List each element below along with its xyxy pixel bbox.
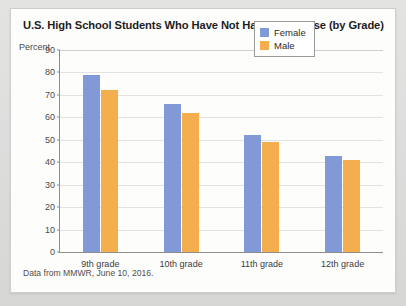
y-tick-mark-60 [57, 117, 60, 118]
y-tick-mark-0 [57, 252, 60, 253]
legend-label-female: Female [274, 27, 306, 38]
y-tick-mark-20 [57, 207, 60, 208]
bar-female-11th-grade [244, 135, 261, 252]
bar-female-9th-grade [83, 75, 100, 252]
page-background: U.S. High School Students Who Have Not H… [0, 0, 406, 306]
chart-title: U.S. High School Students Who Have Not H… [23, 19, 389, 31]
y-tick-mark-30 [57, 184, 60, 185]
source-note: Data from MMWR, June 10, 2016. [23, 268, 153, 278]
y-tick-label-0: 0 [50, 247, 55, 257]
y-tick-mark-40 [57, 162, 60, 163]
y-tick-label-90: 90 [45, 45, 55, 55]
y-tick-label-70: 70 [45, 90, 55, 100]
bar-female-10th-grade [164, 104, 181, 252]
y-tick-label-20: 20 [45, 202, 55, 212]
bar-male-12th-grade [343, 160, 360, 252]
x-tick-label-12th-grade: 12th grade [321, 259, 364, 269]
y-tick-mark-10 [57, 229, 60, 230]
legend-item-male[interactable]: Male [260, 39, 306, 52]
legend-label-male: Male [274, 40, 295, 51]
y-tick-mark-50 [57, 139, 60, 140]
y-tick-mark-70 [57, 94, 60, 95]
plot-area: 01020304050607080909th grade10th grade11… [59, 50, 383, 253]
y-tick-mark-90 [57, 50, 60, 51]
y-tick-label-50: 50 [45, 135, 55, 145]
legend-swatch-icon-female [260, 28, 269, 37]
y-tick-label-80: 80 [45, 67, 55, 77]
legend-swatch-icon-male [260, 41, 269, 50]
gridline-90 [60, 50, 383, 51]
y-tick-mark-80 [57, 72, 60, 73]
x-tick-label-11th-grade: 11th grade [241, 259, 283, 269]
chart-legend: Female Male [254, 21, 315, 57]
y-tick-label-60: 60 [45, 112, 55, 122]
bar-male-10th-grade [182, 113, 199, 252]
y-tick-label-30: 30 [45, 180, 55, 190]
y-tick-label-40: 40 [45, 157, 55, 167]
x-tick-label-10th-grade: 10th grade [160, 259, 203, 269]
bar-female-12th-grade [325, 156, 342, 253]
chart-card: U.S. High School Students Who Have Not H… [10, 8, 396, 293]
y-tick-label-10: 10 [45, 225, 55, 235]
gridline-80 [60, 72, 383, 73]
bar-male-11th-grade [262, 142, 279, 252]
bar-male-9th-grade [101, 90, 118, 252]
legend-item-female[interactable]: Female [260, 26, 306, 39]
